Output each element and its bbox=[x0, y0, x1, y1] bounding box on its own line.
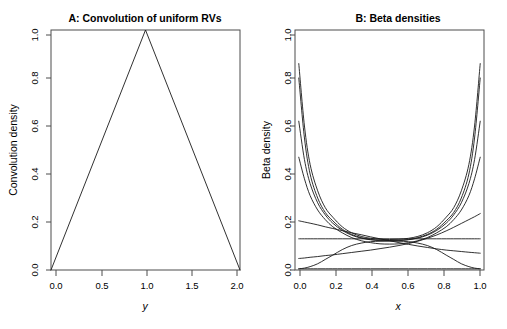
panel-a-title: A: Convolution of uniform RVs bbox=[68, 12, 221, 24]
panel-b-x-tick-0: 0.0 bbox=[293, 280, 306, 291]
figure-canvas: A: Convolution of uniform RVs Convolutio… bbox=[0, 0, 507, 329]
panel-a-convolution: A: Convolution of uniform RVs Convolutio… bbox=[0, 0, 253, 329]
panel-a-y-tick-2: 0.4 bbox=[29, 167, 40, 180]
panel-b-beta-densities: B: Beta densities Beta density x 0.0 0.2… bbox=[253, 0, 506, 329]
panel-b-x-tick-2: 0.4 bbox=[365, 280, 378, 291]
panel-a-y-tick-3: 0.6 bbox=[29, 119, 40, 132]
panel-b-y-axis-label: Beta density bbox=[260, 120, 272, 179]
panel-a-y-tick-5: 1.0 bbox=[29, 28, 40, 41]
panel-a-x-axis-label: y bbox=[141, 300, 148, 312]
data-series-8 bbox=[299, 241, 480, 269]
panel-a-y-tick-4: 0.8 bbox=[29, 71, 40, 84]
panel-a-x-tick-2: 1.0 bbox=[140, 280, 153, 291]
panel-a-data-lines bbox=[51, 30, 240, 270]
data-series-6 bbox=[299, 221, 480, 253]
panel-a-y-tick-1: 0.2 bbox=[29, 215, 40, 228]
panel-a-y-axis-label: Convolution density bbox=[7, 103, 19, 195]
panel-a-x-tick-4: 2.0 bbox=[230, 280, 243, 291]
panel-b-plot-frame bbox=[295, 30, 484, 270]
panel-b-x-tick-3: 0.6 bbox=[401, 280, 414, 291]
data-series-0 bbox=[51, 30, 240, 270]
panel-a-x-tick-0: 0.0 bbox=[49, 280, 62, 291]
panel-b-x-tick-5: 1.0 bbox=[473, 280, 486, 291]
data-series-2 bbox=[299, 121, 480, 241]
panel-a-plot-frame bbox=[51, 30, 240, 270]
data-series-3 bbox=[299, 157, 480, 244]
panel-b-data-lines bbox=[299, 64, 480, 269]
panel-b-x-tick-4: 0.8 bbox=[437, 280, 450, 291]
panel-a-x-tick-1: 0.5 bbox=[95, 280, 108, 291]
panel-b-x-axis-label: x bbox=[394, 300, 401, 312]
panel-a-y-tick-0: 0.0 bbox=[29, 263, 40, 276]
panel-b-title: B: Beta densities bbox=[355, 12, 440, 24]
panel-b-x-tick-1: 0.2 bbox=[329, 280, 342, 291]
panel-a-x-tick-3: 1.5 bbox=[185, 280, 198, 291]
